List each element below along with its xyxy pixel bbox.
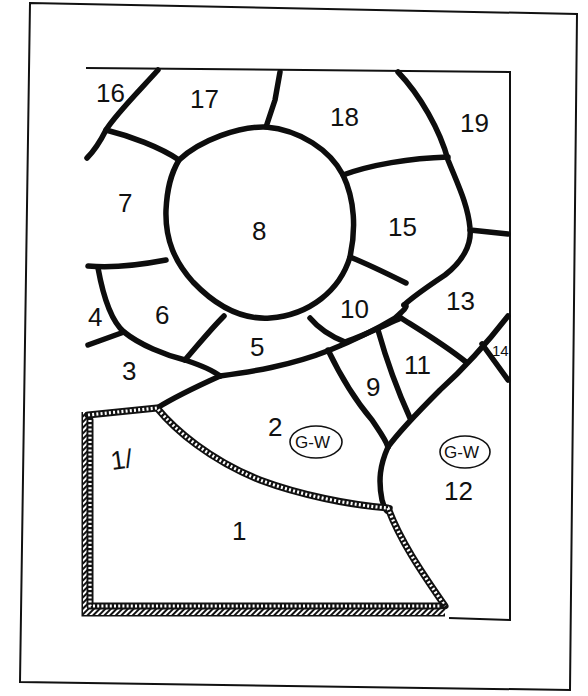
label-piece-9: 9 xyxy=(366,372,380,402)
label-piece-17: 17 xyxy=(190,84,219,114)
label-piece-8: 8 xyxy=(252,216,266,246)
label-piece-12: 12 xyxy=(444,476,473,506)
label-piece-5: 5 xyxy=(250,332,264,362)
label-piece-1: 1 xyxy=(232,516,246,546)
label-piece-11: 11 xyxy=(404,350,431,380)
label-piece-13: 13 xyxy=(446,286,475,316)
label-piece-14: 14 xyxy=(492,342,509,359)
glass-note-badge-piece-12: G-W xyxy=(440,436,490,468)
stained-glass-pattern: 16 17 18 19 7 8 15 4 6 10 13 14 5 3 9 11… xyxy=(0,0,588,696)
glass-note-badge-piece-2: G-W xyxy=(290,426,342,458)
label-piece-18: 18 xyxy=(330,102,359,132)
label-piece-15: 15 xyxy=(388,212,417,242)
label-piece-3: 3 xyxy=(122,356,136,386)
label-piece-6: 6 xyxy=(155,300,169,330)
glass-note-text: G-W xyxy=(444,443,479,462)
label-piece-10: 10 xyxy=(340,294,369,324)
label-piece-19: 19 xyxy=(460,108,489,138)
side-mark: 1/ xyxy=(109,443,135,476)
glass-note-text: G-W xyxy=(295,433,330,452)
label-piece-4: 4 xyxy=(88,302,102,332)
label-piece-2: 2 xyxy=(268,412,282,442)
label-piece-16: 16 xyxy=(96,78,125,108)
label-piece-7: 7 xyxy=(118,188,132,218)
